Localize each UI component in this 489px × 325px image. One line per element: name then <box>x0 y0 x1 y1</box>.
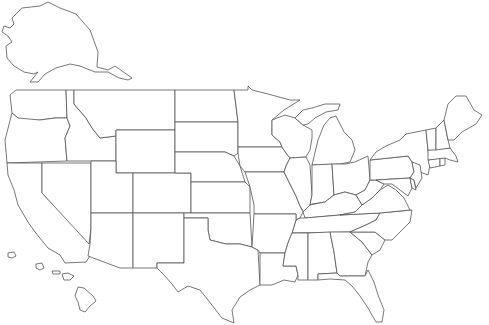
state-oregon[interactable] <box>5 113 70 163</box>
state-south-dakota[interactable] <box>175 122 238 156</box>
state-florida[interactable] <box>318 270 384 322</box>
state-north-dakota[interactable] <box>175 90 238 122</box>
state-iowa[interactable] <box>238 147 290 172</box>
state-colorado[interactable] <box>133 173 191 213</box>
state-hawaii-maui[interactable] <box>62 273 74 280</box>
state-rhode-island[interactable] <box>440 158 445 166</box>
state-hawaii-molokai[interactable] <box>52 271 60 274</box>
state-hawaii-big-island[interactable] <box>75 287 96 312</box>
state-wyoming[interactable] <box>116 130 175 173</box>
state-arizona[interactable] <box>88 213 133 268</box>
state-maine[interactable] <box>444 96 482 140</box>
state-kansas[interactable] <box>191 182 250 213</box>
state-hawaii-kauai[interactable] <box>8 252 16 258</box>
state-alaska[interactable] <box>2 2 132 82</box>
state-vermont[interactable] <box>426 128 436 150</box>
state-hawaii-oahu[interactable] <box>36 263 44 270</box>
state-washington[interactable] <box>10 90 67 121</box>
us-states-outline-map <box>0 0 489 325</box>
state-new-mexico[interactable] <box>133 213 184 268</box>
